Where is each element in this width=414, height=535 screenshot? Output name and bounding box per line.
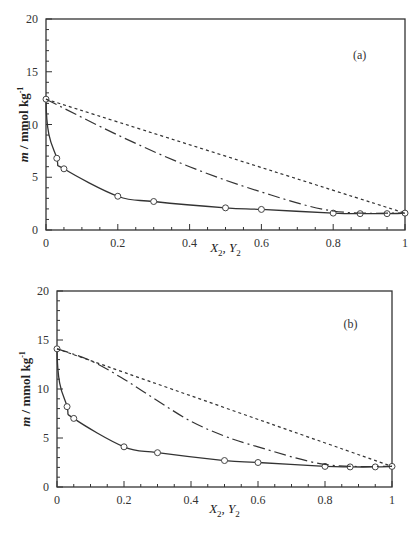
data-point-marker — [151, 199, 157, 205]
x-tick-label: 0.4 — [182, 236, 197, 250]
plot-frame — [46, 19, 405, 230]
dotted-line — [46, 99, 405, 213]
y-tick-label: 20 — [26, 12, 38, 26]
panel-label: (a) — [353, 48, 366, 62]
data-point-marker — [64, 404, 70, 410]
y-tick-label: 15 — [26, 65, 38, 79]
y-tick-label: 5 — [32, 170, 38, 184]
data-point-marker — [155, 450, 161, 456]
data-point-marker — [115, 193, 121, 199]
y-tick-label: 0 — [43, 480, 49, 494]
x-axis-title: X2, Y2 — [208, 501, 240, 519]
chart-panel-a: 00.20.40.60.8105101520X2, Y2m / mmol kg-… — [16, 12, 408, 258]
y-tick-label: 0 — [32, 223, 38, 237]
y-tick-label: 5 — [43, 431, 49, 445]
x-axis-title: X2, Y2 — [209, 240, 241, 258]
panel-label: (b) — [343, 317, 357, 331]
x-tick-label: 1 — [389, 493, 395, 507]
x-tick-label: 0.8 — [318, 493, 333, 507]
x-tick-label: 0.4 — [184, 493, 199, 507]
y-axis-title: m / mmol kg-1 — [18, 351, 33, 427]
data-point-marker — [258, 206, 264, 212]
data-point-marker — [223, 205, 229, 211]
x-tick-label: 1 — [402, 236, 408, 250]
x-tick-label: 0.6 — [254, 236, 269, 250]
data-point-marker — [61, 166, 67, 172]
y-tick-label: 20 — [37, 284, 49, 298]
data-point-marker — [222, 458, 228, 464]
figure: 00.20.40.60.8105101520X2, Y2m / mmol kg-… — [0, 0, 414, 535]
data-point-marker — [54, 155, 60, 161]
x-tick-label: 0.6 — [251, 493, 266, 507]
chart-panel-b: 00.20.40.60.8105101520X2, Y2m / mmol kg-… — [18, 284, 395, 519]
x-tick-label: 0 — [43, 236, 49, 250]
y-tick-label: 15 — [37, 333, 49, 347]
x-tick-label: 0 — [54, 493, 60, 507]
data-point-marker — [71, 415, 77, 421]
data-point-marker — [121, 444, 127, 450]
x-tick-label: 0.2 — [117, 493, 132, 507]
y-tick-label: 10 — [37, 382, 49, 396]
x-tick-label: 0.2 — [110, 236, 125, 250]
data-point-marker — [255, 460, 261, 466]
y-axis-title: m / mmol kg-1 — [16, 87, 31, 163]
x-tick-label: 0.8 — [326, 236, 341, 250]
dotted-line — [57, 349, 392, 467]
